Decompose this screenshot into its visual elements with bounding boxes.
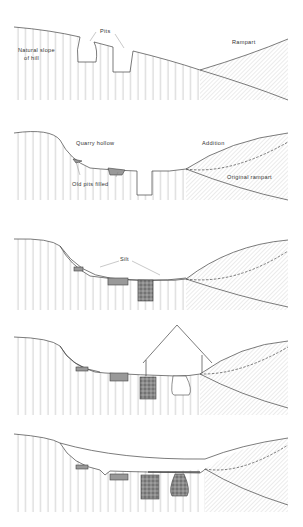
panel-3: Silt (14, 239, 288, 310)
label-of-hill: of hill (24, 55, 39, 61)
label-natural-slope: Natural slope (18, 47, 55, 53)
label-old-pits-filled: Old pits filled (72, 181, 109, 187)
panel-5 (14, 434, 288, 512)
panel-4 (14, 325, 288, 415)
label-pits: Pits (100, 28, 111, 34)
label-rampart: Rampart (232, 39, 256, 45)
panel-2: Quarry hollow Addition Old pits filled O… (14, 132, 288, 200)
panel-1: Pits Natural slope of hill Rampart (14, 27, 288, 100)
section-diagram: Pits Natural slope of hill Rampart Quarr… (0, 0, 303, 527)
label-original-rampart: Original rampart (227, 174, 272, 180)
label-quarry-hollow: Quarry hollow (76, 140, 115, 146)
label-addition: Addition (202, 140, 225, 146)
label-silt: Silt (120, 256, 129, 262)
